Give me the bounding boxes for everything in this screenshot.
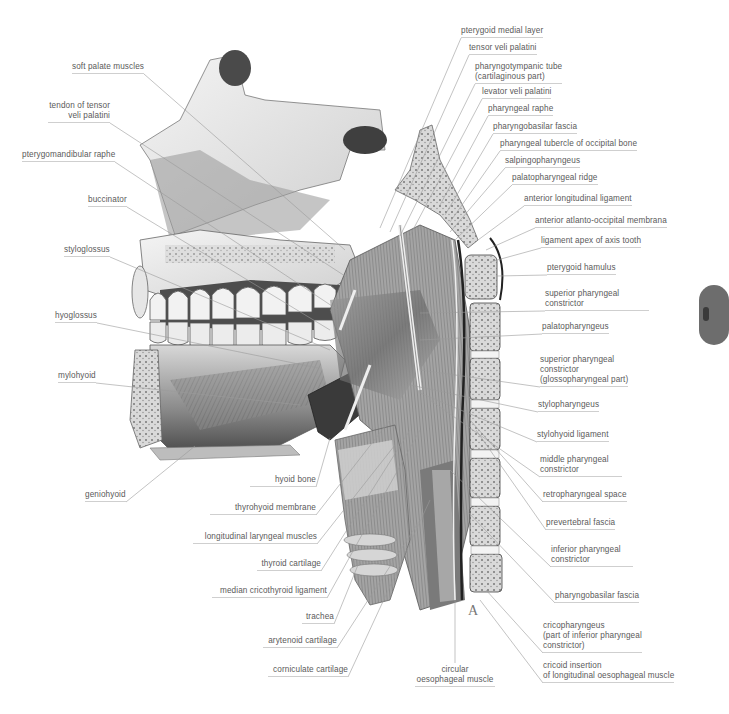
label-line: corniculate cartilage — [268, 665, 348, 675]
label-geniohyoid: geniohyoid — [85, 490, 126, 502]
leader-anterior-atlanto-occipital-membrana — [486, 228, 535, 250]
label-tendon-tensor-veli-palatini: tendon of tensorveli palatini — [48, 101, 110, 123]
label-pharyngotympanic-tube: pharyngotympanic tube(cartilaginous part… — [475, 62, 562, 84]
label-hyoid-bone: hyoid bone — [250, 475, 316, 487]
label-line: (part of inferior pharyngeal — [543, 631, 642, 641]
label-line: constrictor) — [543, 641, 642, 651]
label-line: stylohyoid ligament — [537, 430, 609, 440]
label-line: hyoglossus — [55, 311, 97, 321]
label-thyrohyoid-membrane: thyrohyoid membrane — [210, 503, 316, 515]
leader-pharyngobasilar-fascia-top — [445, 134, 493, 215]
label-line: soft palate muscles — [72, 62, 144, 72]
label-line: pterygoid hamulus — [547, 263, 616, 273]
label-stylohyoid-ligament: stylohyoid ligament — [537, 430, 609, 442]
label-line: pharyngeal tubercle of occipital bone — [500, 139, 637, 149]
label-inferior-pharyngeal-constrictor: inferior pharyngealconstrictor — [551, 545, 633, 567]
label-line: ligament apex of axis tooth — [541, 236, 641, 246]
label-palatopharyngeus: palatopharyngeus — [542, 322, 609, 334]
leader-hyoid-bone — [316, 438, 330, 487]
label-line: cricoid insertion — [543, 661, 674, 671]
label-line: palatopharyngeus — [542, 322, 609, 332]
label-line: levator veli palatini — [482, 87, 551, 97]
label-anterior-longitudinal-ligament: anterior longitudinal ligament — [524, 194, 632, 206]
label-line: geniohyoid — [85, 490, 126, 500]
leader-trachea — [334, 560, 360, 624]
label-line: circular — [415, 665, 495, 675]
label-line: stylopharyngeus — [538, 400, 599, 410]
label-line: constrictor — [551, 555, 633, 565]
label-pharyngeal-tubercle-occipital-bone: pharyngeal tubercle of occipital bone — [500, 139, 637, 151]
label-line: constrictor — [540, 365, 628, 375]
maxilla-spongy — [165, 245, 335, 263]
label-line: constrictor — [545, 299, 649, 309]
label-line: pharyngobasilar fascia — [555, 591, 639, 601]
label-line: retropharyngeal space — [543, 490, 627, 500]
label-line: (cartilaginous part) — [475, 72, 562, 82]
label-hyoglossus: hyoglossus — [55, 311, 97, 323]
label-tensor-veli-palatini: tensor veli palatini — [469, 43, 537, 55]
leader-pterygoid-hamulus — [497, 275, 547, 276]
label-line: thyrohyoid membrane — [210, 503, 316, 513]
label-thyroid-cartilage: thyroid cartilage — [257, 559, 321, 571]
label-line: salpingopharyngeus — [505, 156, 580, 166]
label-retropharyngeal-space: retropharyngeal space — [543, 490, 627, 502]
label-cricopharyngeus: cricopharyngeus(part of inferior pharyng… — [543, 621, 642, 653]
label-line: tendon of tensor — [48, 101, 110, 111]
label-line: pharyngeal raphe — [488, 104, 553, 114]
label-levator-veli-palatini: levator veli palatini — [482, 87, 551, 99]
leader-pharyngeal-tubercle-occipital-bone — [450, 151, 500, 222]
leader-pharyngeal-raphe — [440, 116, 488, 205]
label-prevertebral-fascia: prevertebral fascia — [546, 518, 615, 530]
label-line: longitudinal laryngeal muscles — [193, 532, 317, 542]
label-pharyngobasilar-fascia-top: pharyngobasilar fascia — [493, 122, 577, 134]
figure-letter: A — [468, 603, 478, 619]
label-line: superior pharyngeal — [545, 289, 649, 299]
label-line: arytenoid cartilage — [263, 636, 337, 646]
label-line: oesophageal muscle — [415, 675, 495, 685]
label-anterior-atlanto-occipital-membrana: anterior atlanto-occipital membrana — [535, 216, 667, 228]
label-cricoid-insertion-longitudinal-oesophageal-muscle: cricoid insertionof longitudinal oesopha… — [543, 661, 674, 683]
label-superior-pharyngeal-constrictor-glosso: superior pharyngealconstrictor(glossopha… — [540, 355, 628, 387]
label-line: pharyngotympanic tube — [475, 62, 562, 72]
label-line: cricopharyngeus — [543, 621, 642, 631]
side-thumbnail-edge[interactable] — [699, 285, 729, 345]
label-line: (glossopharyngeal part) — [540, 375, 628, 385]
label-buccinator: buccinator — [88, 195, 127, 207]
label-line: superior pharyngeal — [540, 355, 628, 365]
label-line: pterygoid medial layer — [461, 26, 543, 36]
label-line: hyoid bone — [250, 475, 316, 485]
lip-upper — [132, 266, 148, 318]
label-styloglossus: styloglossus — [64, 245, 110, 257]
label-line: middle pharyngeal — [540, 455, 622, 465]
label-pterygomandibular-raphe: pterygomandibular raphe — [22, 150, 115, 162]
label-mylohyoid: mylohyoid — [58, 371, 96, 383]
label-line: anterior atlanto-occipital membrana — [535, 216, 667, 226]
label-superior-pharyngeal-constrictor: superior pharyngealconstrictor — [545, 289, 649, 311]
label-line: of longitudinal oesophageal muscle — [543, 671, 674, 681]
label-line: tensor veli palatini — [469, 43, 537, 53]
label-line: veli palatini — [48, 111, 110, 121]
label-middle-pharyngeal-constrictor: middle pharyngealconstrictor — [540, 455, 622, 477]
label-line: prevertebral fascia — [546, 518, 615, 528]
label-pharyngeal-raphe: pharyngeal raphe — [488, 104, 553, 116]
tracheal-rings — [344, 534, 398, 576]
label-line: constrictor — [540, 465, 622, 475]
label-line: thyroid cartilage — [257, 559, 321, 569]
label-line: mylohyoid — [58, 371, 96, 381]
label-line: anterior longitudinal ligament — [524, 194, 632, 204]
sinus-opening — [343, 126, 387, 154]
label-soft-palate-muscles: soft palate muscles — [72, 62, 144, 74]
leader-cricopharyngeus — [486, 590, 543, 653]
label-line: inferior pharyngeal — [551, 545, 633, 555]
label-stylopharyngeus: stylopharyngeus — [538, 400, 599, 412]
label-ligament-apex-axis-tooth: ligament apex of axis tooth — [541, 236, 641, 248]
label-pterygoid-hamulus: pterygoid hamulus — [547, 263, 616, 275]
label-line: pterygomandibular raphe — [22, 150, 115, 160]
thyroid-cartilage-shape — [338, 440, 398, 500]
label-arytenoid-cartilage: arytenoid cartilage — [263, 636, 337, 648]
label-pharyngobasilar-fascia-bottom: pharyngobasilar fascia — [555, 591, 639, 603]
label-salpingopharyngeus: salpingopharyngeus — [505, 156, 580, 168]
label-longitudinal-laryngeal-muscles: longitudinal laryngeal muscles — [193, 532, 317, 544]
label-pterygoid-medial-layer: pterygoid medial layer — [461, 26, 543, 38]
